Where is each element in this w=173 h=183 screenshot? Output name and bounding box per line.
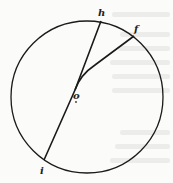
center-dot bbox=[75, 101, 77, 103]
label-center-o: o bbox=[73, 90, 80, 101]
line-junction-f bbox=[75, 36, 134, 90]
label-h: h bbox=[98, 7, 105, 18]
label-f: f bbox=[133, 23, 140, 34]
label-i: i bbox=[40, 165, 44, 176]
circle bbox=[11, 21, 163, 173]
circle-diagram: h f i o bbox=[0, 0, 173, 183]
